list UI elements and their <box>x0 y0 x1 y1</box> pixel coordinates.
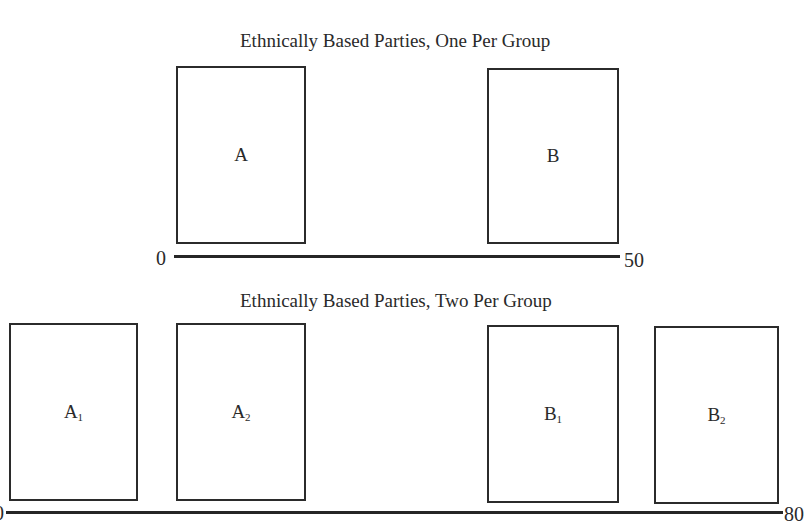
panel-title: Ethnically Based Parties, One Per Group <box>240 30 550 52</box>
cut-off-heading <box>0 0 812 6</box>
party-label: B <box>489 145 617 167</box>
party-label: B1 <box>489 403 617 425</box>
party-box-b2: B2 <box>654 326 779 504</box>
panel-title: Ethnically Based Parties, Two Per Group <box>240 290 552 312</box>
party-box-a1: A1 <box>9 323 138 501</box>
party-label: A2 <box>178 401 304 423</box>
party-box-b1: B1 <box>487 325 619 503</box>
axis-line <box>174 255 620 258</box>
party-box-a2: A2 <box>176 323 306 501</box>
axis-line <box>6 511 783 514</box>
axis-max-label: 80 <box>784 504 804 521</box>
axis-min-label: 0 <box>156 248 166 268</box>
party-box-b: B <box>487 68 619 244</box>
axis-max-label: 50 <box>624 250 644 270</box>
party-label: B2 <box>656 404 777 426</box>
party-label: A1 <box>11 401 136 423</box>
party-label: A <box>178 144 304 166</box>
party-box-a: A <box>176 66 306 244</box>
axis-min-label: 0 <box>0 503 4 521</box>
